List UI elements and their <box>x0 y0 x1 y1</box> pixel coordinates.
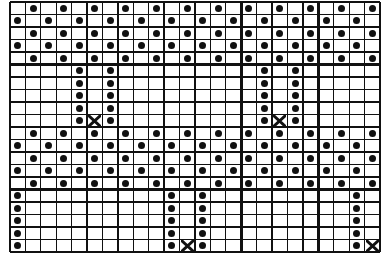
dot-stitch-icon <box>292 105 299 112</box>
dot-stitch-icon <box>338 155 345 162</box>
dot-stitch-icon <box>307 130 314 137</box>
dot-stitch-icon <box>107 142 114 149</box>
dot-stitch-icon <box>199 242 206 249</box>
dot-stitch-icon <box>230 17 237 24</box>
dot-stitch-icon <box>76 80 83 87</box>
dot-stitch-icon <box>199 17 206 24</box>
dot-stitch-icon <box>199 142 206 149</box>
dot-stitch-icon <box>122 130 129 137</box>
dot-stitch-icon <box>245 5 252 12</box>
dot-stitch-icon <box>338 130 345 137</box>
dot-stitch-icon <box>261 67 268 74</box>
dot-stitch-icon <box>261 92 268 99</box>
dot-stitch-icon <box>184 155 191 162</box>
dot-stitch-icon <box>14 205 21 212</box>
dot-stitch-icon <box>215 5 222 12</box>
dot-stitch-icon <box>107 167 114 174</box>
dot-stitch-icon <box>199 217 206 224</box>
dot-stitch-icon <box>369 30 376 37</box>
dot-stitch-icon <box>76 92 83 99</box>
dot-stitch-icon <box>353 242 360 249</box>
dot-stitch-icon <box>307 155 314 162</box>
dot-stitch-icon <box>107 42 114 49</box>
dot-stitch-icon <box>353 230 360 237</box>
dot-stitch-icon <box>276 180 283 187</box>
gridline-horizontal <box>10 239 380 240</box>
dot-stitch-icon <box>168 230 175 237</box>
dot-stitch-icon <box>76 42 83 49</box>
dot-stitch-icon <box>91 55 98 62</box>
major-gridline-horizontal <box>10 126 380 129</box>
dot-stitch-icon <box>60 130 67 137</box>
dot-stitch-icon <box>14 142 21 149</box>
dot-stitch-icon <box>184 130 191 137</box>
dot-stitch-icon <box>153 155 160 162</box>
dot-stitch-icon <box>369 5 376 12</box>
dot-stitch-icon <box>353 167 360 174</box>
dot-stitch-icon <box>307 30 314 37</box>
dot-stitch-icon <box>60 30 67 37</box>
dot-stitch-icon <box>107 92 114 99</box>
gridline-horizontal <box>10 214 380 215</box>
dot-stitch-icon <box>14 167 21 174</box>
dot-stitch-icon <box>91 155 98 162</box>
dot-stitch-icon <box>30 130 37 137</box>
gridline-horizontal <box>10 139 380 140</box>
dot-stitch-icon <box>353 217 360 224</box>
gridline-horizontal <box>10 14 380 15</box>
dot-stitch-icon <box>76 117 83 124</box>
dot-stitch-icon <box>276 130 283 137</box>
dot-stitch-icon <box>261 17 268 24</box>
dot-stitch-icon <box>60 180 67 187</box>
dot-stitch-icon <box>30 5 37 12</box>
dot-stitch-icon <box>76 105 83 112</box>
dot-stitch-icon <box>184 55 191 62</box>
dot-stitch-icon <box>353 142 360 149</box>
gridline-horizontal <box>10 164 380 165</box>
dot-stitch-icon <box>168 17 175 24</box>
dot-stitch-icon <box>76 67 83 74</box>
dot-stitch-icon <box>338 55 345 62</box>
dot-stitch-icon <box>307 180 314 187</box>
dot-stitch-icon <box>14 242 21 249</box>
dot-stitch-icon <box>138 42 145 49</box>
dot-stitch-icon <box>292 42 299 49</box>
gridline-horizontal <box>10 201 380 202</box>
dot-stitch-icon <box>107 105 114 112</box>
dot-stitch-icon <box>369 55 376 62</box>
dot-stitch-icon <box>199 42 206 49</box>
dot-stitch-icon <box>168 205 175 212</box>
dot-stitch-icon <box>292 67 299 74</box>
dot-stitch-icon <box>76 17 83 24</box>
cross-stitch-icon <box>88 115 101 127</box>
dot-stitch-icon <box>45 42 52 49</box>
dot-stitch-icon <box>138 142 145 149</box>
dot-stitch-icon <box>153 180 160 187</box>
dot-stitch-icon <box>323 42 330 49</box>
cross-stitch-icon <box>366 240 379 252</box>
dot-stitch-icon <box>138 17 145 24</box>
dot-stitch-icon <box>107 117 114 124</box>
dot-stitch-icon <box>292 80 299 87</box>
major-gridline-horizontal <box>10 63 380 66</box>
dot-stitch-icon <box>245 180 252 187</box>
gridline-horizontal <box>10 101 380 102</box>
dot-stitch-icon <box>230 167 237 174</box>
dot-stitch-icon <box>60 5 67 12</box>
dot-stitch-icon <box>122 155 129 162</box>
gridline-horizontal <box>10 76 380 77</box>
dot-stitch-icon <box>107 80 114 87</box>
dot-stitch-icon <box>215 130 222 137</box>
dot-stitch-icon <box>153 30 160 37</box>
stitch-chart-grid <box>10 2 380 252</box>
dot-stitch-icon <box>184 180 191 187</box>
dot-stitch-icon <box>107 17 114 24</box>
dot-stitch-icon <box>261 42 268 49</box>
dot-stitch-icon <box>14 17 21 24</box>
dot-stitch-icon <box>353 205 360 212</box>
gridline-horizontal <box>10 51 380 52</box>
gridline-horizontal <box>10 176 380 177</box>
dot-stitch-icon <box>353 17 360 24</box>
dot-stitch-icon <box>184 5 191 12</box>
dot-stitch-icon <box>30 30 37 37</box>
